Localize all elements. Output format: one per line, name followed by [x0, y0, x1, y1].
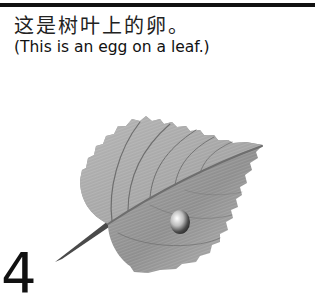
egg [170, 210, 190, 234]
page-number: 4 [1, 243, 37, 300]
leaf [80, 116, 263, 273]
leaf-illustration [0, 0, 315, 300]
leaf-stem [55, 221, 112, 262]
